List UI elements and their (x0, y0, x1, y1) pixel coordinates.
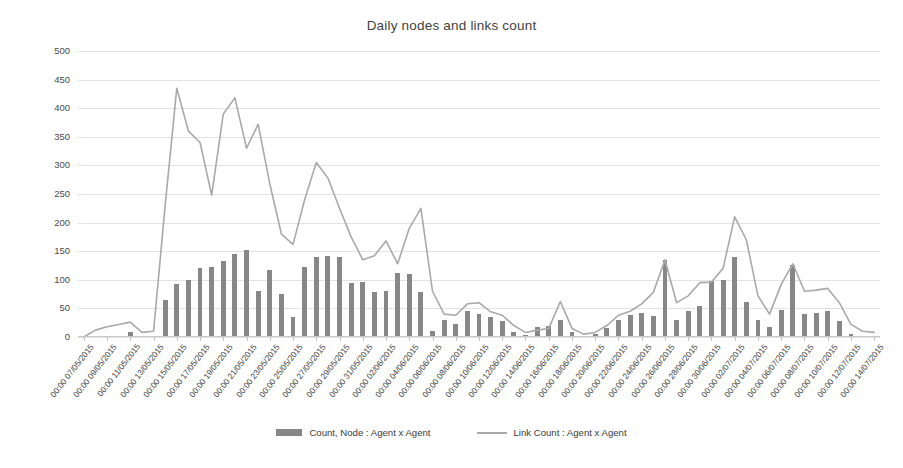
chart-title: Daily nodes and links count (0, 18, 903, 33)
y-axis-tick-label: 200 (30, 217, 70, 228)
y-axis-tick-label: 150 (30, 245, 70, 256)
legend-item-node-count[interactable]: Count, Node : Agent x Agent (276, 427, 430, 438)
line-series-layer (78, 51, 880, 337)
y-axis-tick-label: 100 (30, 274, 70, 285)
y-axis-tick-label: 350 (30, 131, 70, 142)
y-axis-tick-label: 400 (30, 102, 70, 113)
plot-area (78, 51, 880, 337)
y-axis-tick-label: 50 (30, 302, 70, 313)
y-axis-tick-label: 500 (30, 45, 70, 56)
y-axis-tick-label: 250 (30, 188, 70, 199)
legend-label-node-count: Count, Node : Agent x Agent (309, 427, 430, 438)
legend-item-link-count[interactable]: Link Count : Agent x Agent (477, 427, 627, 438)
x-axis-labels: 00:00 07/05/201500:00 09/05/201500:00 11… (0, 337, 903, 427)
bar-swatch-icon (276, 429, 302, 436)
chart-legend: Count, Node : Agent x Agent Link Count :… (0, 427, 903, 438)
legend-label-link-count: Link Count : Agent x Agent (514, 427, 627, 438)
x-axis-tick-label: 00:00 14/07/2015 (838, 342, 886, 399)
chart-container: Daily nodes and links count 050100150200… (0, 0, 903, 468)
line-swatch-icon (477, 432, 507, 434)
link-count-line (84, 88, 874, 337)
y-axis-tick-label: 300 (30, 159, 70, 170)
y-axis-tick-label: 450 (30, 74, 70, 85)
